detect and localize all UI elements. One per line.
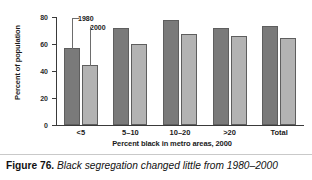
caption-text: Black segregation changed little from 19… [57, 160, 278, 171]
x-axis-tick-label: >20 [205, 128, 255, 137]
bar-group [262, 17, 296, 125]
bar-1980-<5 [64, 48, 80, 125]
x-axis-tick-label: <5 [56, 128, 106, 137]
annotation-label-1980: 1980 [78, 15, 94, 22]
y-axis-tick-label: 0 [24, 122, 48, 129]
caption-figure-number: Figure 76. [6, 160, 54, 171]
bar-2000-<5 [82, 65, 98, 125]
figure-caption: Figure 76. Black segregation changed lit… [6, 159, 308, 173]
x-axis-tick-label: Total [254, 128, 304, 137]
bar-group [213, 17, 247, 125]
bar-group [163, 17, 197, 125]
caption-divider [0, 154, 312, 155]
bar-2000->20 [231, 36, 247, 125]
annotation-label-2000: 2000 [90, 24, 106, 31]
y-axis-tick [52, 125, 56, 126]
bar-2000-Total [280, 38, 296, 125]
bar-group [64, 17, 98, 125]
chart-plot-area: Percent of population 020406080 <55–1010… [0, 0, 312, 152]
bar-1980->20 [213, 28, 229, 125]
bar-group-container [56, 17, 304, 125]
y-axis-tick-label: 40 [24, 68, 48, 75]
x-axis-title: Percent black in metro areas, 2000 [40, 139, 304, 148]
bar-2000-10–20 [181, 34, 197, 125]
bar-1980-10–20 [163, 20, 179, 125]
bar-1980-Total [262, 26, 278, 125]
annotation-leader-line-2000 [90, 27, 91, 66]
y-axis-tick-label: 20 [24, 95, 48, 102]
y-axis-tick-label: 60 [24, 41, 48, 48]
figure: Percent of population 020406080 <55–1010… [0, 0, 312, 180]
y-axis-title: Percent of population [13, 15, 22, 111]
y-axis-tick-label: 80 [24, 14, 48, 21]
bar-2000-5–10 [131, 44, 147, 125]
bar-group [113, 17, 147, 125]
x-axis-tick-label: 10–20 [155, 128, 205, 137]
bar-1980-5–10 [113, 28, 129, 125]
annotation-leader-line-1980 [72, 18, 79, 49]
x-axis-tick-label: 5–10 [106, 128, 156, 137]
